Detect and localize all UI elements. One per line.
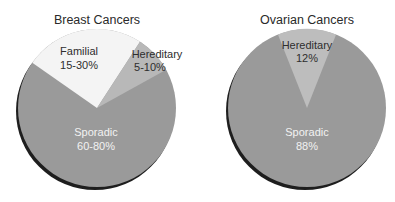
hereditary-value: 5-10% — [134, 61, 166, 73]
familial-value: 15-30% — [60, 59, 98, 71]
hereditary-name: Hereditary — [282, 39, 333, 51]
breast-cancers-chart: Breast Cancers Familial 15-30% Hereditar… — [0, 0, 197, 202]
ovarian-cancers-pie: Hereditary 12% Sporadic 88% — [210, 0, 395, 202]
sporadic-name: Sporadic — [74, 126, 118, 138]
familial-name: Familial — [60, 45, 98, 57]
hereditary-value: 12% — [296, 52, 318, 64]
ovarian-cancers-chart: Ovarian Cancers Hereditary 12% Sporadic … — [210, 0, 395, 202]
sporadic-value: 60-80% — [77, 140, 115, 152]
breast-cancers-pie: Familial 15-30% Hereditary 5-10% Sporadi… — [0, 0, 197, 202]
hereditary-name: Hereditary — [132, 48, 183, 60]
sporadic-value: 88% — [296, 140, 318, 152]
sporadic-name: Sporadic — [285, 126, 329, 138]
